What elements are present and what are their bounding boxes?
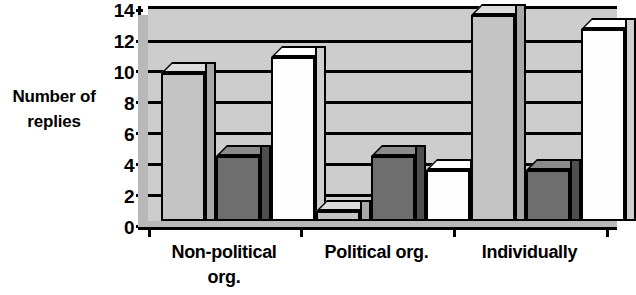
y-tick-label-4: 4 [104,155,134,177]
category-0-line-1: Non-political [148,240,300,265]
y-axis-title-line-1: Number of [0,84,108,109]
bar-side-g2-s1 [360,200,371,221]
y-axis-title-line-2: replies [0,109,108,134]
x-axis-category-label-1: Political org. [300,240,453,265]
x-axis-category-label-2: Individually [453,240,606,265]
bar-side-g1-s2 [260,145,271,221]
bar-side-g3-s3 [625,18,636,221]
x-tick-mark-3 [606,230,609,237]
bar-g2-series-3 [426,170,470,221]
bar-g3-series-1 [471,15,515,221]
bar-g3-series-2 [526,170,570,221]
y-axis-title: Number of replies [0,84,108,134]
y-tick-label-2: 2 [104,186,134,208]
bar-g2-series-1 [316,211,360,221]
bar-g1-series-1 [161,73,205,221]
bar-g3-series-3 [581,29,625,221]
x-tick-mark-0 [148,230,151,237]
gridline-10 [148,70,617,73]
x-axis-line [138,227,617,230]
category-1-line-1: Political org. [300,240,453,265]
plot-left-wall [138,15,148,230]
gridline-6 [148,132,617,135]
category-0-line-2: org. [148,265,300,290]
y-tick-label-10: 10 [104,62,134,84]
bar-g1-series-2 [216,156,260,221]
bar-side-g1-s1 [205,62,216,221]
y-tick-label-14: 14 [104,0,134,22]
gridline-12 [148,40,617,43]
y-tick-label-0: 0 [104,217,134,239]
bar-g1-series-3 [271,57,315,221]
x-axis-category-label-0: Non-political org. [148,240,300,290]
bar-g2-series-2 [371,156,415,221]
bar-side-g2-s2 [415,145,426,221]
x-tick-mark-1 [300,230,303,237]
y-tick-label-8: 8 [104,93,134,115]
bar-side-g3-s2 [570,159,581,221]
y-tick-label-6: 6 [104,124,134,146]
x-tick-mark-2 [453,230,456,237]
y-tick-label-12: 12 [104,31,134,53]
bar-side-g1-s3 [315,46,326,221]
bar-side-g3-s1 [515,4,526,221]
gridline-8 [148,101,617,104]
plot-area [138,6,617,230]
category-2-line-1: Individually [453,240,606,265]
